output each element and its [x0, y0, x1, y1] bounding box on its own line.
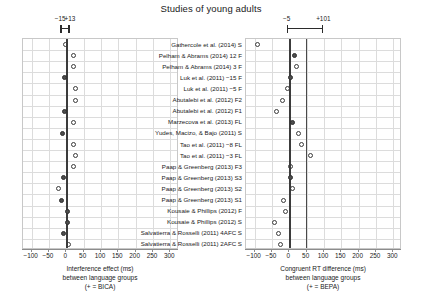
gridline-vertical — [393, 39, 394, 248]
data-point — [61, 175, 66, 180]
study-label: Paap & Greenberg (2013) S3 — [162, 173, 243, 180]
study-label: Abutalebi et al. (2012) F1 — [173, 107, 242, 114]
confidence-interval-bracket: −15+13 — [60, 24, 70, 33]
study-label-list: Gathercole et al. (2014) SPelham & Abram… — [178, 38, 244, 249]
gridline-vertical — [341, 39, 342, 248]
data-point — [276, 231, 281, 236]
study-label: Gathercole et al. (2014) S — [171, 40, 242, 47]
data-point — [71, 142, 76, 147]
data-point — [274, 109, 279, 114]
gridline-vertical — [84, 39, 85, 248]
axis-tick-label: 200 — [352, 252, 363, 259]
gridline-vertical — [255, 39, 256, 248]
study-label: Luk et al. (2011) −5 F — [183, 84, 242, 91]
data-point — [255, 42, 260, 47]
gridline-vertical — [32, 39, 33, 248]
reference-line-0 — [289, 39, 291, 248]
data-point — [288, 75, 293, 80]
axis-tick-label: −50 — [43, 252, 54, 259]
axis-caption-line: between language groups — [9, 273, 191, 282]
gridline-vertical — [359, 39, 360, 248]
data-point — [290, 186, 295, 191]
axis-tick-label: −50 — [266, 252, 277, 259]
data-point — [73, 153, 78, 158]
study-label: Marzecova et al. (2013) FL — [168, 118, 242, 125]
plot-area-left — [22, 38, 178, 249]
data-point — [61, 231, 66, 236]
study-label: Kousaie & Phillips (2012) F — [167, 207, 242, 214]
page-title: Studies of young adults — [0, 3, 422, 14]
axis-caption-line: Interference effect (ms) — [9, 264, 191, 273]
axis-caption-line: (+ = BICA) — [9, 282, 191, 291]
ci-cap-upper — [68, 25, 69, 33]
confidence-interval-bracket: −5+101 — [287, 24, 324, 33]
data-point — [71, 120, 76, 125]
gridline-vertical — [324, 39, 325, 248]
axis-tick-label: 50 — [79, 252, 86, 259]
gridline-vertical — [153, 39, 154, 248]
axis-caption-right: Congruent RT difference (ms)between lang… — [232, 264, 414, 292]
data-point — [71, 64, 76, 69]
study-label: Salvatierra & Rosselli (2011) 2AFC S — [141, 240, 242, 247]
x-axis-left: −100−50050100150200250300 — [22, 249, 178, 263]
gridline-vertical — [136, 39, 137, 248]
study-label: Pelham & Abrams (2014) 12 F — [159, 51, 242, 58]
axis-caption-line: (+ = BEPA) — [232, 282, 414, 291]
data-point — [308, 153, 313, 158]
axis-tick-label: 0 — [287, 252, 291, 259]
data-point — [280, 98, 285, 103]
axis-tick-label: 100 — [95, 252, 106, 259]
data-point — [272, 220, 277, 225]
data-point — [60, 131, 65, 136]
study-label: Pelham & Abrams (2014) 3 F — [162, 62, 242, 69]
study-label: Yudes, Macizo, & Bajo (2011) S — [155, 129, 242, 136]
study-label: Luk et al. (2011) −15 F — [180, 73, 242, 80]
study-label: Paap & Greenberg (2013) S2 — [162, 184, 243, 191]
ci-label-upper: +101 — [316, 15, 330, 22]
study-label: Tao et al. (2011) −8 FL — [180, 140, 242, 147]
study-label: Kousaie & Phillips (2012) S — [167, 218, 242, 225]
ci-label-upper: +13 — [64, 15, 75, 22]
study-label: Salvatierra & Rosselli (2011) 4AFC S — [141, 229, 242, 236]
data-point — [56, 186, 61, 191]
forest-plot-figure: Studies of young adults −15+13 −5+101 Ga… — [0, 0, 422, 301]
gridline-vertical — [101, 39, 102, 248]
data-point — [73, 86, 78, 91]
data-point — [292, 53, 297, 58]
data-point — [71, 53, 76, 58]
interference-effect-panel: −15+13 — [22, 38, 178, 249]
reference-line-0 — [66, 39, 68, 248]
x-axis-right: −100−50050100150200250300 — [245, 249, 401, 263]
data-point — [71, 164, 76, 169]
axis-caption-line: Congruent RT difference (ms) — [232, 264, 414, 273]
axis-tick-label: 250 — [370, 252, 381, 259]
axis-tick-label: −100 — [23, 252, 37, 259]
ci-bar — [287, 28, 324, 29]
axis-tick-label: 300 — [164, 252, 175, 259]
axis-tick-label: 150 — [335, 252, 346, 259]
plot-area-right — [245, 38, 401, 249]
data-point — [65, 209, 70, 214]
data-point — [288, 175, 293, 180]
reference-line-48 — [306, 39, 307, 248]
gridline-vertical — [118, 39, 119, 248]
axis-tick-label: −100 — [246, 252, 260, 259]
ci-cap-lower — [60, 25, 61, 33]
ci-cap-upper — [322, 25, 323, 33]
study-label: Paap & Greenberg (2013) F3 — [162, 162, 242, 169]
data-point — [59, 198, 64, 203]
data-point — [65, 220, 70, 225]
study-label: Tao et al. (2011) −3 FL — [180, 151, 242, 158]
study-label: Abutalebi et al. (2012) F2 — [173, 96, 242, 103]
gridline-vertical — [49, 39, 50, 248]
data-point — [73, 98, 78, 103]
axis-caption-line: between language groups — [232, 273, 414, 282]
data-point — [290, 120, 295, 125]
study-label: Paap & Greenberg (2013) S1 — [162, 196, 243, 203]
data-point — [281, 198, 286, 203]
gridline-vertical — [170, 39, 171, 248]
axis-tick-label: 300 — [387, 252, 398, 259]
data-point — [283, 209, 288, 214]
data-point — [299, 142, 304, 147]
axis-tick-label: 0 — [64, 252, 68, 259]
